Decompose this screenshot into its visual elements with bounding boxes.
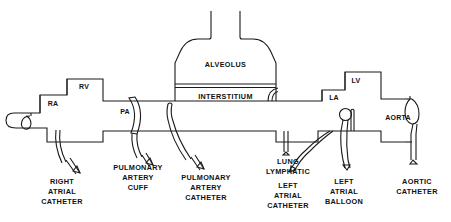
- svg-text:AORTIC: AORTIC: [402, 177, 432, 186]
- caption-pulmonary-artery-cuff: PULMONARY ARTERY CUFF: [113, 163, 162, 192]
- right-atrium-label: RA: [48, 100, 59, 107]
- svg-text:LEFT: LEFT: [334, 177, 354, 186]
- caption-right-atrial-catheter: RIGHT ATRIAL CATHETER: [41, 177, 83, 206]
- svg-text:ATRIAL: ATRIAL: [48, 187, 76, 196]
- chamber-dividers: [40, 72, 345, 113]
- svg-text:RIGHT: RIGHT: [50, 177, 74, 186]
- left-ventricle-label: LV: [352, 77, 361, 84]
- right-ventricle-label: RV: [79, 83, 89, 90]
- left-atrial-catheter-instrument: [294, 131, 333, 165]
- svg-text:BALLOON: BALLOON: [325, 197, 363, 206]
- pulmonary-artery-cuff-instrument: [129, 97, 142, 158]
- caption-aortic-catheter: AORTIC CATHETER: [396, 177, 438, 196]
- svg-text:ARTERY: ARTERY: [190, 183, 222, 192]
- left-atrial-balloon-instrument: [340, 109, 355, 161]
- caption-lung-lymphatic: LUNG LYMPHATIC: [266, 157, 310, 176]
- svg-text:CATHETER: CATHETER: [185, 193, 227, 202]
- caption-pulmonary-artery-catheter: PULMONARY ARTERY CATHETER: [181, 173, 230, 202]
- svg-text:ARTERY: ARTERY: [122, 173, 154, 182]
- svg-text:LUNG: LUNG: [277, 157, 299, 166]
- caption-left-atrial-balloon: LEFT ATRIAL BALLOON: [325, 177, 363, 206]
- pulmonary-artery-label: PA: [120, 108, 130, 115]
- svg-text:ATRIAL: ATRIAL: [274, 191, 302, 200]
- right-atrial-catheter-instrument: [21, 113, 66, 163]
- alveolar-membrane: [175, 84, 276, 88]
- caption-left-atrial-catheter: LEFT ATRIAL CATHETER: [267, 181, 309, 210]
- svg-text:CUFF: CUFF: [128, 183, 149, 192]
- svg-text:PULMONARY: PULMONARY: [181, 173, 230, 182]
- venous-inflow-cap: [6, 113, 16, 128]
- left-atrium-label: LA: [329, 94, 339, 101]
- svg-text:LYMPHATIC: LYMPHATIC: [266, 167, 310, 176]
- aortic-catheter-instrument: [405, 96, 419, 160]
- svg-text:LEFT: LEFT: [278, 181, 298, 190]
- svg-text:CATHETER: CATHETER: [267, 201, 309, 210]
- instrument-captions: RIGHT ATRIAL CATHETER PULMONARY ARTERY C…: [41, 157, 438, 210]
- svg-text:CATHETER: CATHETER: [396, 187, 438, 196]
- svg-text:ATRIAL: ATRIAL: [330, 187, 358, 196]
- svg-text:PULMONARY: PULMONARY: [113, 163, 162, 172]
- alveolus-label: ALVEOLUS: [205, 60, 246, 69]
- interstitium-label: INTERSTITIUM: [198, 92, 253, 101]
- diagram-canvas: ALVEOLUS INTERSTITIUM RA RV PA LA LV AOR…: [0, 0, 451, 222]
- svg-text:CATHETER: CATHETER: [41, 197, 83, 206]
